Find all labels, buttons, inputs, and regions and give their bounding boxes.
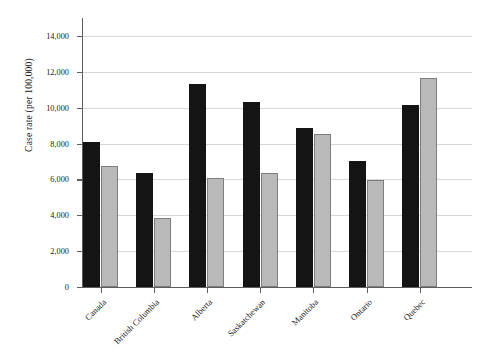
bar-series-light-alberta [207,178,224,287]
x-axis-label-manitoba: Manitoba [172,297,320,356]
gridline [83,36,472,37]
bar-chart: Case rate (per 100,000) CanadaBritish Co… [0,0,494,356]
y-axis-tick-label: 14,000 [46,31,69,40]
bar-series-dark-british-columbia [136,173,153,287]
x-axis-label-alberta: Alberta [65,297,213,356]
bar-series-dark-saskatchewan [243,102,260,287]
bar-series-dark-alberta [189,84,206,287]
x-axis-tick [207,287,208,293]
bar-series-dark-quebec [402,105,419,287]
y-axis-tick-label: 10,000 [46,103,69,112]
bar-series-light-quebec [420,78,437,287]
x-axis-label-british-columbia: British Columbia [12,297,160,356]
x-axis-tick [420,287,421,293]
bar-series-dark-ontario [349,161,366,287]
x-axis-tick [154,287,155,293]
y-axis-tick-label: 2,000 [50,247,69,256]
x-axis-line [82,287,472,288]
x-axis-tick [260,287,261,293]
y-axis-tick-label: 6,000 [50,175,69,184]
plot-area: CanadaBritish ColumbiaAlbertaSaskatchewa… [83,18,472,287]
bar-series-light-canada [101,166,118,287]
x-axis-tick [367,287,368,293]
bar-series-dark-manitoba [296,128,313,287]
y-axis-tick [77,108,83,109]
y-axis-tick-label: 8,000 [50,139,69,148]
x-axis-tick [313,287,314,293]
y-axis-tick [77,36,83,37]
y-axis-tick-label: 4,000 [50,211,69,220]
y-axis-tick [77,287,83,288]
gridline [83,72,472,73]
x-axis-label-quebec: Quebec [278,297,426,356]
y-axis-tick-label: 12,000 [46,67,69,76]
bar-series-light-ontario [367,180,384,287]
bar-series-light-manitoba [314,134,331,287]
x-axis-label-saskatchewan: Saskatchewan [119,297,267,356]
y-axis-tick [77,72,83,73]
x-axis-label-canada: Canada [0,297,108,356]
x-axis-label-ontario: Ontario [225,297,373,356]
bar-series-light-british-columbia [154,218,171,287]
bar-series-light-saskatchewan [261,173,278,287]
x-axis-tick [101,287,102,293]
y-axis-tick-label: 0 [65,283,69,292]
bar-series-dark-canada [83,142,100,287]
